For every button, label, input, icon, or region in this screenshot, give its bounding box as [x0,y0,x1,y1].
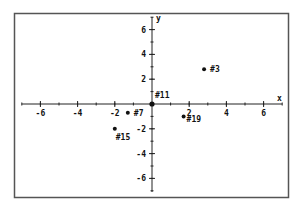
scatter-plot: xy -6-4-2246642-2-4-6 #3#11#7#15#19 [0,0,298,208]
y-tick-label: 2 [141,75,146,84]
point-label: #7 [134,109,144,118]
x-tick-label: 4 [224,109,229,118]
data-point [149,101,154,106]
x-tick-label: 6 [261,109,266,118]
x-tick-label: -2 [110,109,120,118]
point-label: #19 [187,115,202,124]
y-tick-label: 6 [141,26,146,35]
y-tick-label: 4 [141,50,146,59]
point-label: #15 [116,133,131,142]
x-tick-label: -6 [36,109,46,118]
data-point [182,114,186,118]
x-tick-label: -4 [73,109,83,118]
point-label: #3 [210,65,220,74]
data-point [113,127,117,131]
y-tick-label: -6 [136,174,146,183]
data-point [202,67,206,71]
y-tick-label: -4 [136,150,146,159]
x-axis-label: x [277,94,282,103]
point-label: #11 [155,91,170,100]
y-axis-label: y [156,14,161,23]
data-point [126,111,130,115]
y-tick-label: -2 [136,125,146,134]
